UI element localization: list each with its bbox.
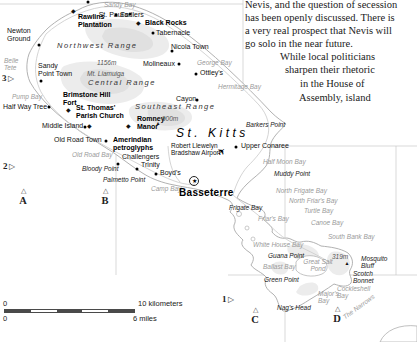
town-label-tabernacle: Tabernacle [156,29,190,37]
town-dot-newton-ground [38,44,41,47]
continuation-arrow-icon: ▷ [228,295,234,304]
site-marker-icon-romney-manor: ◆ [126,123,131,129]
article-line-2: has been openly discussed. There is [245,12,395,23]
water-label-camp-bay: Camp Bay [151,185,181,192]
town-label-sadlers: Sadlers [120,11,144,19]
peak-icon-319m: ▲ [345,261,350,266]
settlement-dot-0 [87,1,90,4]
airport-label: Robert LlewelynBradshaw Airport [171,142,221,157]
point-label-palmetto-point: Palmetto Point [103,176,145,183]
scale-bar-graphic [4,309,135,313]
water-label-turtle-bay: Turtle Bay [304,207,333,214]
peak-label-1156m: 1156m [97,59,116,66]
site-label-black-rocks: Black Rocks [145,19,187,27]
point-label-scotch-bonnet: ScotchBonnet [353,270,374,285]
site-marker-icon-brimstone-hill-fort: ◆ [66,107,71,113]
town-dot-sandy-point-town [40,80,43,83]
town-dot-ottley-s [195,73,198,76]
peak-icon-900m: ▲ [156,121,161,126]
capital-star-icon: ★ [189,176,199,186]
scale-km-label: 10 kilometers [138,299,183,308]
water-label-major-s-bay: Major'sBay [318,290,339,305]
continuation-arrow-icon: ▷ [9,162,15,171]
town-label-ottley-s: Ottley's [200,69,223,77]
water-label-george-bay: George Bay [197,59,232,66]
peak-label-319m: 319m [332,253,348,260]
town-label-upper-conaree: Upper Conaree [241,142,289,150]
town-label-old-road-town: Old Road Town [54,136,102,144]
water-label-hermitage-bay: Hermitage Bay [218,83,261,90]
site-label-rawlins-plantation: RawlinsPlantation [78,13,112,29]
water-label-ballast-bay: Ballast Bay [263,263,296,270]
water-label-north-friar-s-bay: North Friar's Bay [289,197,338,204]
water-label-white-house-bay: White House Bay [253,241,303,248]
water-label-friar-s-bay: Friar's Bay [258,215,289,222]
water-label-south-bank-bay: South Bank Bay [328,233,375,240]
range-label-northwest-range: Northwest Range [57,42,137,50]
article-line-6: sharpen their rhetoric [285,64,375,75]
town-label-newton-ground: NewtonGround [7,27,31,43]
water-label-belle-tete: BelleTete [4,57,18,72]
scale-km-zero: 0 [3,299,7,308]
scale-bar: 0 10 kilometers 0 6 miles [0,295,210,335]
site-marker-icon-st-thomas-parish-church: ◆ [87,123,92,129]
point-label-muddy-point: Muddy Point [274,170,310,177]
capital-label: Basseterre [179,187,234,198]
map-continuation-ref-1: 1▷ [222,294,234,305]
town-dot-half-way-tree [48,106,51,109]
site-marker-icon-rawlins-plantation: ◆ [71,8,76,14]
town-dot-sadlers [115,14,118,17]
article-line-1: Nevis, and the question of secession [245,0,397,10]
point-label-mosquito-bluff: MosquitoBluff [361,255,387,270]
continuation-arrow-icon: ▷ [8,74,14,83]
water-label-canoe-bay: Canoe Bay [311,219,343,226]
point-label-barkers-point: Barkers Point [246,121,285,128]
range-label-southeast-range: Southeast Range [135,103,215,111]
site-label-st-thomas-parish-church: St. Thomas'Parish Church [76,104,124,120]
grid-ref-D: △D [330,306,344,324]
peak-label-900m: 900m [162,115,178,122]
water-label-half-moon-bay: Half Moon Bay [263,158,306,165]
water-label-pump-bay: Pump Bay [12,93,42,100]
point-label-nag-s-head: Nag's Head [277,304,311,311]
scale-mi-zero: 0 [3,314,7,323]
site-label-amerindian-petroglyphs: Amerindianpetroglyphs [113,136,153,152]
town-dot-tabernacle [152,32,155,35]
point-label-frigate-bay: Frigate Bay [229,204,262,211]
range-label-central-range: Central Range [88,79,156,87]
grid-ref-A: △A [16,188,30,206]
point-label-bloody-point: Bloody Point [82,165,119,172]
point-label-guana-point: Guana Point [268,252,304,259]
article-line-4: go solo in the near future. [245,38,353,49]
continuation-number: 3 [2,73,7,83]
scale-mi-label: 6 miles [133,314,157,323]
article-line-5: While local politicians [280,51,375,62]
point-label-green-point: Green Point [264,276,299,283]
site-marker-icon-black-rocks: ◆ [136,20,141,26]
map-continuation-ref-3: 3▷ [2,73,14,84]
island-name-label: St. Kitts [176,127,249,140]
grid-ref-C: △C [248,307,262,325]
town-dot-boyd-s [155,173,158,176]
town-label-nicola-town: Nicola Town [171,43,209,51]
town-label-challengers: Challengers [122,153,159,161]
town-label-boyd-s: Boyd's [160,169,181,177]
continuation-number: 1 [222,294,227,304]
article-line-3: a very real prospect that Nevis will [245,25,392,36]
article-line-7: in the House of [300,78,364,89]
peak-label-mt-liamuiga: Mt. Liamuiga [87,70,124,77]
article-line-8: Assembly, island [299,92,371,103]
town-label-molineaux: Molineaux [143,60,175,68]
grid-ref-B: △B [98,188,112,206]
continuation-number: 2 [3,161,8,171]
town-label-half-way-tree: Half Way Tree [3,103,47,111]
map-continuation-ref-2: 2▷ [3,161,15,172]
town-dot-upper-conaree [235,146,238,149]
water-label-north-frigate-bay: North Frigate Bay [276,187,327,194]
town-label-middle-island: Middle Island [42,122,83,130]
water-label-old-road-bay: Old Road Bay [72,151,112,158]
water-label-sandy-bay: Sandy Bay [104,1,135,8]
town-dot-old-road-town [105,140,108,143]
town-label-trinity: Trinity [141,161,160,169]
water-label-great-salt-pond: Great SaltPond [303,258,332,273]
